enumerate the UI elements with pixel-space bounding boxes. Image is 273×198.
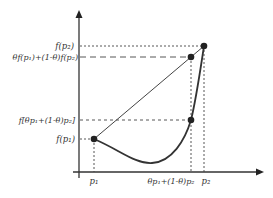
label-f-combo: f[θp₁+(1-θ)p₂] (18, 116, 76, 125)
convex-curve (94, 46, 204, 163)
convex-function-diagram: f(p₂) θf(p₁)+(1-θ)f(p₂) f[θp₁+(1-θ)p₂] f… (0, 0, 273, 198)
point-p2 (201, 43, 208, 50)
label-chord-value: θf(p₁)+(1-θ)f(p₂) (13, 53, 78, 62)
y-axis-arrow-icon (76, 10, 83, 18)
x-axis-arrow-icon (256, 169, 264, 176)
label-p2: p₂ (202, 176, 211, 186)
label-f-p1: f(p₁) (55, 134, 75, 144)
label-p1: p₁ (90, 176, 99, 186)
point-p1 (91, 136, 98, 143)
chord-line (94, 46, 204, 139)
label-combo: θp₁+(1-θ)p₂ (147, 177, 194, 186)
point-curve (188, 117, 195, 124)
point-chord (188, 54, 195, 61)
label-f-p2: f(p₂) (54, 41, 74, 51)
